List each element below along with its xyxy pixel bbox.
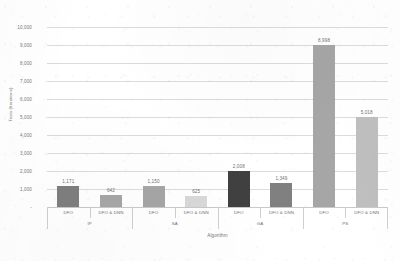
y-tick-label: 6,000 (0, 97, 32, 102)
bar-slot: 5,018 (345, 27, 388, 207)
bar-value-label: 1,171 (62, 179, 74, 184)
y-tick-label: 10,000 (0, 25, 32, 30)
axis-group-separator (47, 207, 48, 229)
bar[interactable] (100, 195, 122, 207)
bar-slot: 625 (175, 27, 218, 207)
x-subcategory-label: DFO & DNN (175, 207, 218, 218)
bar[interactable] (228, 171, 250, 207)
x-group-label: IP (47, 218, 132, 229)
x-subcategory-label: DFO (218, 207, 261, 218)
y-tick-label: 1,000 (0, 187, 32, 192)
bar-value-label: 642 (107, 188, 115, 193)
bar[interactable] (356, 117, 378, 207)
x-subcategory-label: DFO & DNN (90, 207, 133, 218)
bar-value-label: 625 (192, 189, 200, 194)
axis-group-separator (132, 207, 133, 229)
x-subcategory-label: DFO & DNN (345, 207, 388, 218)
x-axis-title: Algorithm (47, 233, 388, 238)
bar-slot: 8,998 (303, 27, 346, 207)
bar-slot: 1,171 (47, 27, 90, 207)
axis-group-separator (218, 207, 219, 229)
x-subcategory-label: DFO (132, 207, 175, 218)
bar-slot: 1,349 (260, 27, 303, 207)
y-tick-label: 4,000 (0, 133, 32, 138)
bar-slot: 2,008 (218, 27, 261, 207)
x-group-label: SA (132, 218, 217, 229)
bar-value-label: 1,150 (148, 179, 160, 184)
bar-slot: 642 (90, 27, 133, 207)
x-subcategory-label: DFO (303, 207, 346, 218)
bar[interactable] (313, 45, 335, 207)
bar[interactable] (57, 186, 79, 207)
axis-group-separator (387, 207, 388, 229)
bar[interactable] (185, 196, 207, 207)
x-group-label: GA (218, 218, 303, 229)
bars-layer: 1,1716421,1506252,0081,3498,9985,018 (47, 27, 388, 207)
axis-subcategory-separator (345, 207, 346, 218)
bar[interactable] (270, 183, 292, 207)
axis-subcategory-separator (175, 207, 176, 218)
bar-value-label: 5,018 (361, 110, 373, 115)
y-tick-label: - (0, 205, 32, 210)
bar-value-label: 2,008 (233, 164, 245, 169)
axis-group-separator (303, 207, 304, 229)
bar-chart: Tests (Iterations) 10,0009,0008,0007,000… (0, 0, 400, 261)
y-tick-label: 8,000 (0, 61, 32, 66)
y-tick-label: 2,000 (0, 169, 32, 174)
plot-area: 10,0009,0008,0007,0006,0005,0004,0003,00… (47, 27, 388, 207)
bar-slot: 1,150 (132, 27, 175, 207)
bar-value-label: 8,998 (318, 38, 330, 43)
x-subcategory-label: DFO & DNN (260, 207, 303, 218)
bar-value-label: 1,349 (275, 176, 287, 181)
axis-subcategory-separator (260, 207, 261, 218)
x-subcategory-label: DFO (47, 207, 90, 218)
y-axis-title: Tests (Iterations) (5, 0, 17, 208)
y-tick-label: 5,000 (0, 115, 32, 120)
axis-subcategory-separator (90, 207, 91, 218)
bar[interactable] (143, 186, 165, 207)
y-tick-label: 3,000 (0, 151, 32, 156)
y-tick-label: 9,000 (0, 43, 32, 48)
x-group-label: PS (303, 218, 388, 229)
y-tick-label: 7,000 (0, 79, 32, 84)
